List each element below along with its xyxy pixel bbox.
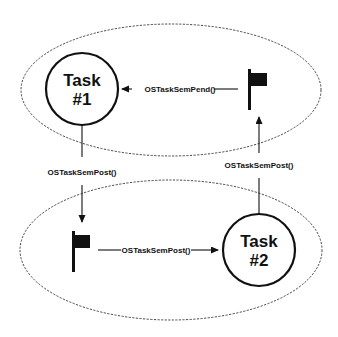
- edge-task1-to-sem2: OSTaskSemPost(): [48, 125, 117, 222]
- task2-node[interactable]: Task #2: [223, 214, 295, 286]
- task1-label-line2: #1: [73, 90, 92, 109]
- task1-label-line1: Task: [63, 71, 101, 90]
- semaphore2-flag-icon[interactable]: [72, 231, 90, 272]
- edge-sem2-to-task2: OSTaskSemPost(): [98, 246, 218, 255]
- task2-label-line1: Task: [240, 232, 278, 251]
- edge-task2-to-sem1: OSTaskSemPost(): [225, 117, 294, 214]
- edge-label-post-bottom: OSTaskSemPost(): [122, 246, 191, 255]
- semaphore1-flag-icon[interactable]: [248, 69, 267, 110]
- edge-sem1-to-task1: OSTaskSemPend(): [122, 85, 238, 94]
- diagram-canvas: Task #1 Task #2 OSTaskSemPend() OSTaskSe…: [0, 0, 338, 337]
- edge-label-post-left: OSTaskSemPost(): [48, 168, 117, 177]
- edge-label-post-right: OSTaskSemPost(): [225, 161, 294, 170]
- task1-node[interactable]: Task #1: [46, 53, 118, 125]
- task2-label-line2: #2: [250, 251, 269, 270]
- edge-label-pend: OSTaskSemPend(): [145, 85, 216, 94]
